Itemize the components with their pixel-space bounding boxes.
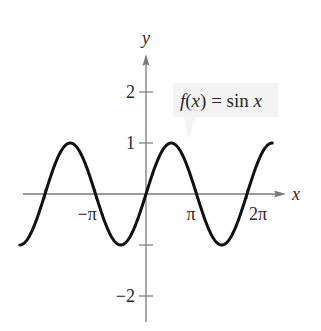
x-tick-label: −π (78, 204, 97, 224)
x-tick-label: 2π (249, 204, 267, 224)
y-tick-label: −2 (116, 286, 135, 306)
function-annotation: f(x) = sin x (173, 83, 278, 139)
y-axis-label: y (140, 28, 150, 48)
annotation-pointer (184, 117, 196, 139)
x-axis-label: x (291, 184, 300, 204)
y-tick-label: 1 (126, 133, 135, 153)
annotation-text: f(x) = sin x (180, 90, 263, 112)
x-axis: x −ππ2π (23, 184, 300, 224)
x-tick-label: π (187, 204, 196, 224)
sine-chart: f(x) = sin x x −ππ2π y 21−2 (0, 0, 321, 331)
y-tick-label: 2 (126, 82, 135, 102)
y-axis: y 21−2 (116, 28, 153, 322)
